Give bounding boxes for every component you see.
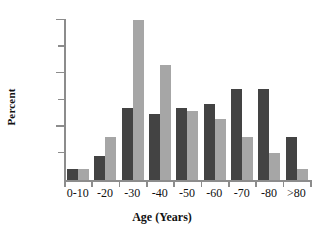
- y-axis-tick: [56, 19, 64, 21]
- bar: [242, 137, 253, 180]
- bar: [231, 89, 242, 180]
- y-axis-tick: [58, 152, 64, 154]
- bar: [215, 119, 226, 180]
- bar: [122, 108, 133, 180]
- bar-group: [67, 169, 89, 180]
- bar: [176, 108, 187, 180]
- bar: [204, 104, 215, 180]
- x-axis-title: Age (Years): [0, 210, 324, 225]
- x-axis-tick-label: -30: [124, 186, 140, 201]
- bar-group: [176, 108, 198, 180]
- x-axis-tick: [255, 180, 257, 187]
- x-axis-line: [64, 180, 312, 182]
- x-axis-tick-label: -80: [261, 186, 277, 201]
- bar: [286, 137, 297, 180]
- x-axis-tick-label: -70: [234, 186, 250, 201]
- x-axis-tick: [119, 180, 121, 187]
- bar-group: [258, 89, 280, 180]
- bar: [297, 169, 308, 180]
- x-axis-tick: [283, 180, 285, 187]
- y-axis-tick: [56, 72, 64, 74]
- bar: [269, 153, 280, 180]
- bar: [105, 137, 116, 180]
- x-axis-tick: [201, 180, 203, 187]
- bar-group: [149, 65, 171, 180]
- x-axis-tick: [91, 180, 93, 187]
- x-axis-tick: [310, 180, 312, 187]
- bar: [67, 169, 78, 180]
- bar: [94, 156, 105, 180]
- x-axis-tick-label: >80: [287, 186, 306, 201]
- x-axis-tick-label: -60: [206, 186, 222, 201]
- y-axis-tick: [56, 125, 64, 127]
- bar-group: [94, 137, 116, 180]
- x-axis-tick-label: -40: [152, 186, 168, 201]
- bar: [133, 20, 144, 180]
- y-axis-title: Percent: [2, 64, 20, 150]
- bar: [187, 111, 198, 180]
- x-axis-tick-label: -20: [97, 186, 113, 201]
- bar: [78, 169, 89, 180]
- bar: [258, 89, 269, 180]
- bar: [160, 65, 171, 180]
- x-axis-tick: [173, 180, 175, 187]
- plot-area: 102030: [64, 20, 310, 180]
- bar-group: [204, 104, 226, 180]
- bar-group: [122, 20, 144, 180]
- x-axis-tick: [146, 180, 148, 187]
- x-axis-tick-label: 0-10: [67, 186, 89, 201]
- y-axis-title-text: Percent: [5, 88, 17, 125]
- bar-chart: Percent 102030 0-10-20-30-40-50-60-70-80…: [0, 0, 324, 244]
- x-axis-tick: [228, 180, 230, 187]
- x-axis-tick-label: -50: [179, 186, 195, 201]
- bar: [149, 114, 160, 180]
- y-axis-tick: [58, 99, 64, 101]
- bar-group: [231, 89, 253, 180]
- bar-group: [286, 137, 308, 180]
- x-axis-tick: [64, 180, 66, 187]
- y-axis-tick: [58, 45, 64, 47]
